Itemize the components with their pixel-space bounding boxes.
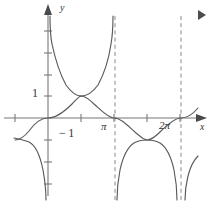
y-axis-label: y bbox=[60, 3, 64, 13]
secant-branch-right-tail bbox=[185, 156, 198, 200]
y-tick-label-negative-one: − 1 bbox=[59, 127, 74, 139]
x-tick-label-pi: π bbox=[101, 121, 107, 132]
secant-branch-lower-left bbox=[14, 138, 46, 200]
secant-branch-upper-left bbox=[50, 16, 81, 96]
y-tick-label-one: 1 bbox=[32, 87, 38, 99]
x-tick-label-two-pi: 2π bbox=[159, 120, 170, 131]
secant-branch-u-shape bbox=[81, 16, 113, 96]
graph-canvas bbox=[0, 0, 213, 206]
play-triangle-marker-icon bbox=[198, 10, 206, 20]
x-axis-label: x bbox=[200, 122, 204, 132]
y-axis-arrowhead bbox=[44, 4, 52, 15]
secant-branch-inverted-u bbox=[117, 140, 177, 200]
trig-graph-figure: y x 1 − 1 π 2π bbox=[0, 0, 213, 206]
